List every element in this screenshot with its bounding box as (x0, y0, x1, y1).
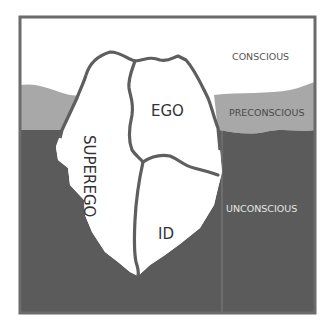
id-label: ID (158, 225, 174, 243)
unconscious-label: UNCONSCIOUS (226, 203, 297, 214)
ego-label: EGO (151, 102, 184, 120)
superego-label: SUPEREGO (80, 135, 98, 235)
conscious-label: CONSCIOUS (232, 51, 289, 62)
iceberg-illustration (0, 0, 334, 333)
preconscious-label: PRECONSCIOUS (229, 107, 304, 118)
